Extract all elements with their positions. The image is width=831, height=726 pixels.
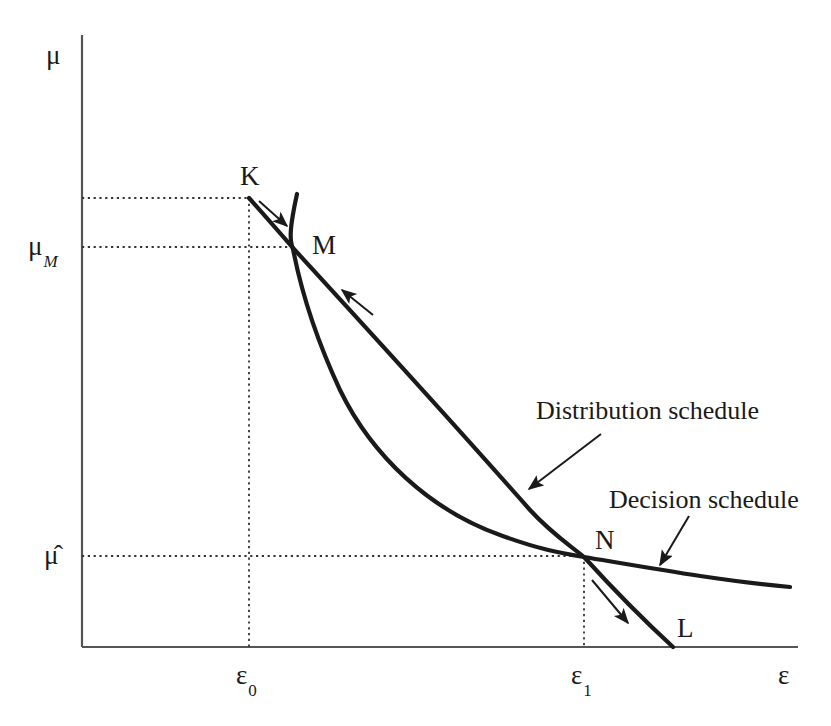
y-tick-label-mu-hat: μ̂: [44, 542, 58, 569]
x-tick-epsilon-1-base: ε: [571, 660, 582, 690]
curve-decision-schedule: [291, 194, 790, 587]
y-axis-label: μ: [46, 42, 60, 69]
x-tick-label-epsilon-1: ε1: [571, 662, 591, 693]
x-tick-label-epsilon-0: ε0: [236, 662, 256, 693]
point-label-K: K: [240, 163, 260, 190]
decision-schedule-label: Decision schedule: [609, 487, 799, 513]
y-tick-mu-hat-base: μ̂: [44, 540, 58, 570]
plot-svg: [0, 0, 831, 726]
point-label-L: L: [677, 615, 694, 642]
point-label-M: M: [312, 232, 336, 259]
x-axis-label: ε: [778, 662, 789, 689]
figure-canvas: μ ε μM μ̂ ε0 ε1 K M N L Distribution sch…: [0, 0, 831, 726]
x-tick-epsilon-1-subscript: 1: [583, 681, 592, 700]
y-tick-label-mu-M: μM: [28, 233, 57, 264]
leader-distribution-schedule: [529, 434, 601, 489]
y-tick-mu-M-subscript: M: [43, 252, 57, 271]
distribution-schedule-label: Distribution schedule: [536, 398, 759, 424]
arrow-toward-M-from-below: [342, 290, 373, 315]
point-label-N: N: [595, 527, 615, 554]
x-tick-epsilon-0-base: ε: [236, 660, 247, 690]
leader-decision-schedule: [660, 516, 689, 565]
y-tick-mu-M-base: μ: [28, 231, 42, 261]
x-tick-epsilon-0-subscript: 0: [248, 681, 257, 700]
